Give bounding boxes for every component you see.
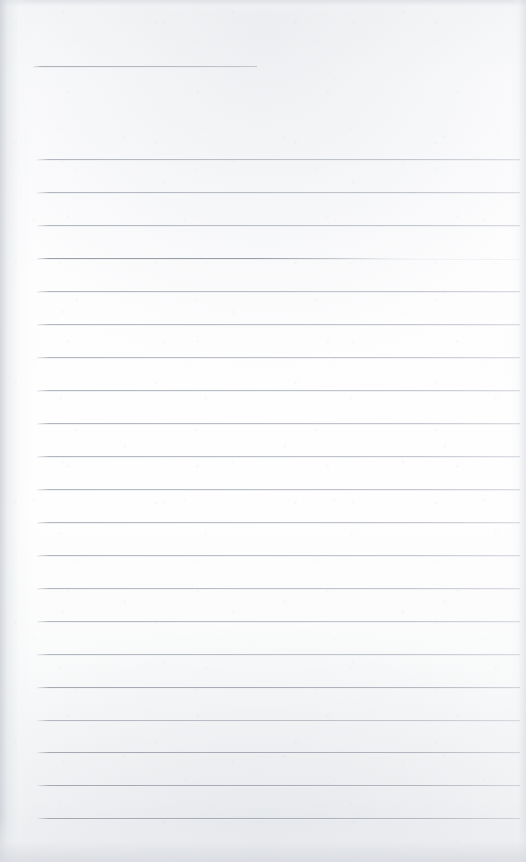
ruled-line (37, 456, 520, 457)
ruled-line (37, 258, 520, 259)
left-edge-shadow (0, 0, 34, 862)
scanned-page (0, 0, 526, 862)
ruled-line (37, 720, 520, 721)
bottom-edge-shadow (0, 816, 526, 862)
paper-grain-texture (0, 0, 526, 862)
ruled-line (37, 324, 520, 325)
ruled-line (37, 588, 520, 589)
ruled-line (37, 621, 520, 622)
right-edge-shadow (510, 0, 526, 862)
ruled-line (37, 390, 520, 391)
ruled-line (37, 423, 520, 424)
ruled-line (37, 225, 520, 226)
ruled-line (37, 522, 520, 523)
ruled-line (37, 489, 520, 490)
ruled-line (37, 291, 520, 292)
top-edge-shadow (0, 0, 526, 12)
ruled-line (37, 687, 520, 688)
ruled-line (37, 785, 520, 786)
ruled-line (37, 555, 520, 556)
ruled-line (37, 192, 520, 193)
header-rule (33, 66, 257, 67)
ruled-line (37, 752, 520, 753)
ruled-line (37, 159, 520, 160)
ruled-line (37, 357, 520, 358)
ruled-line (37, 654, 520, 655)
ruled-line (37, 818, 520, 819)
